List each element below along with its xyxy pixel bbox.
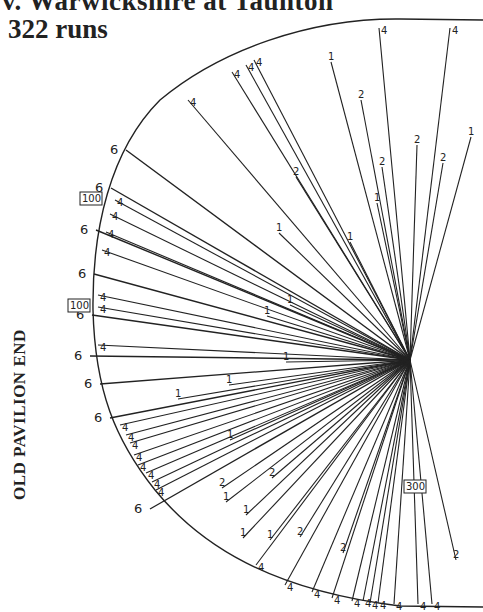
shot-line [382, 167, 410, 360]
shot-label: 4 [396, 601, 402, 612]
shot-line [110, 360, 410, 418]
shot-label: 4 [112, 211, 118, 222]
shot-label: 6 [110, 142, 118, 157]
shot-line [352, 360, 410, 601]
shot-label: 1 [240, 527, 246, 538]
shot-label: 4 [256, 57, 262, 68]
shot-label: 2 [414, 134, 420, 145]
shot-label: 1 [374, 192, 380, 203]
shot-label: 100 [70, 300, 89, 311]
shot-line [410, 28, 450, 360]
shot-label: 1 [227, 429, 233, 440]
shot-label: 4 [258, 562, 264, 573]
shot-label: 4 [452, 25, 458, 36]
shot-label: 4 [334, 595, 340, 606]
shot-label: 4 [381, 25, 387, 36]
shot-label: 4 [158, 487, 164, 498]
shot-line [134, 360, 410, 455]
shot-label: 4 [248, 62, 254, 73]
shot-line [92, 315, 410, 360]
shot-label: 4 [100, 292, 106, 303]
shot-label: 2 [340, 542, 346, 553]
shot-label: 2 [440, 152, 446, 163]
shot-label: 1 [243, 504, 249, 515]
shot-label: 4 [314, 589, 320, 600]
shot-label: 4 [354, 598, 360, 609]
shot-label: 4 [380, 600, 386, 611]
shot-label: 4 [434, 601, 440, 612]
shot-label: 2 [269, 467, 275, 478]
shot-label: 4 [104, 247, 110, 258]
shot-label: 100 [82, 193, 101, 204]
shot-label: 1 [283, 351, 289, 362]
shot-label: 4 [132, 440, 138, 451]
shot-label: 4 [287, 582, 293, 593]
shot-label: 4 [140, 462, 146, 473]
shot-label: 6 [94, 410, 102, 425]
shot-label: 4 [365, 598, 371, 609]
shot-labels: 4444444444444444444444444444444466666666… [68, 25, 474, 612]
shot-label: 4 [420, 601, 426, 612]
shot-label: 2 [219, 477, 225, 488]
shot-line [222, 360, 410, 488]
shot-label: 1 [226, 374, 232, 385]
shot-label: 1 [264, 305, 270, 316]
shot-label: 2 [297, 526, 303, 537]
shot-label: 1 [276, 222, 282, 233]
shot-label: 2 [358, 89, 364, 100]
shot-label: 4 [108, 229, 114, 240]
shot-label: 1 [175, 388, 181, 399]
shot-line [96, 230, 410, 360]
shot-label: 1 [223, 491, 229, 502]
shot-label: 2 [293, 166, 299, 177]
shot-label: 1 [328, 51, 334, 62]
shot-label: 4 [372, 600, 378, 611]
shot-label: 2 [453, 549, 459, 560]
shot-label: 1 [347, 231, 353, 242]
shot-label: 1 [287, 294, 293, 305]
shot-label: 300 [406, 481, 425, 492]
shot-label: 4 [100, 304, 106, 315]
shot-label: 4 [117, 197, 123, 208]
shot-label: 4 [100, 342, 106, 353]
shot-label: 4 [190, 97, 196, 108]
shot-label: 6 [84, 376, 92, 391]
shot-label: 1 [267, 529, 273, 540]
shot-line [331, 62, 410, 360]
shot-line [410, 137, 471, 360]
wagon-wheel-diagram: 4444444444444444444444444444444466666666… [0, 0, 483, 612]
shot-line [410, 360, 456, 560]
shot-label: 2 [379, 156, 385, 167]
shot-label: 6 [134, 501, 142, 516]
shot-line [130, 360, 410, 443]
shot-label: 4 [234, 69, 240, 80]
shot-line [377, 203, 410, 360]
shot-label: 1 [468, 126, 474, 137]
shot-line [312, 360, 410, 592]
shot-label: 6 [74, 348, 82, 363]
shot-label: 6 [78, 266, 86, 281]
shot-label: 6 [80, 222, 88, 237]
shot-line [126, 150, 410, 360]
